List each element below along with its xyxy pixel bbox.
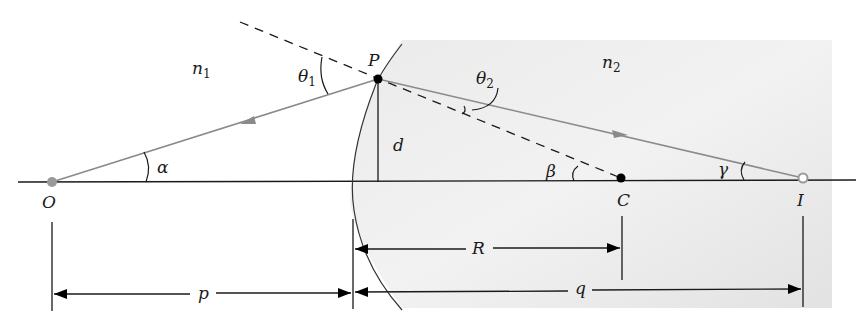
label-P: P (367, 50, 380, 70)
incidence-point (374, 75, 383, 84)
medium-2-region (350, 40, 832, 308)
incident-ray (52, 79, 378, 182)
label-C: C (617, 190, 630, 210)
incident-ray-arrow-icon (240, 116, 256, 124)
label-beta: β (545, 161, 556, 181)
alpha-arc (144, 152, 149, 182)
center-point (617, 174, 626, 183)
label-O: O (42, 192, 56, 212)
label-q: q (575, 278, 586, 298)
r-arrow-left-icon (355, 244, 368, 254)
label-d: d (393, 135, 404, 155)
label-theta1: θ1 (298, 66, 316, 89)
object-point (47, 177, 57, 187)
label-p: p (198, 283, 209, 303)
label-n1: n1 (192, 58, 211, 81)
label-I: I (796, 190, 804, 210)
p-arrow-left-icon (54, 289, 67, 299)
p-arrow-right-icon (338, 288, 351, 298)
label-alpha: α (157, 157, 169, 177)
q-arrow-left-icon (355, 287, 368, 297)
refraction-diagram: n1 n2 θ1 θ2 P d α β γ O C I p R q (0, 0, 864, 325)
theta1-arc (321, 57, 328, 94)
label-R: R (471, 238, 485, 258)
image-point (799, 174, 808, 183)
label-gamma: γ (718, 159, 729, 179)
